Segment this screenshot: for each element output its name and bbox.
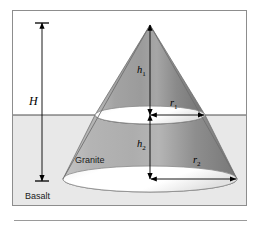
figure-frame: H h1 h2 r1 r2 Granite Basalt: [12, 10, 247, 206]
label-lower-height-subscript: 2: [142, 144, 146, 152]
figure-root: H h1 h2 r1 r2 Granite Basalt: [0, 0, 263, 232]
label-total-height: H: [28, 94, 39, 108]
label-basalt: Basalt: [25, 191, 51, 201]
caption-divider-rule: [14, 220, 247, 221]
label-lower-radius-subscript: 2: [197, 160, 201, 168]
cone-diagram-svg: H h1 h2 r1 r2 Granite Basalt: [13, 11, 246, 205]
label-granite: Granite: [75, 155, 105, 165]
label-upper-height-subscript: 1: [142, 70, 146, 78]
label-upper-radius-subscript: 1: [174, 103, 178, 111]
